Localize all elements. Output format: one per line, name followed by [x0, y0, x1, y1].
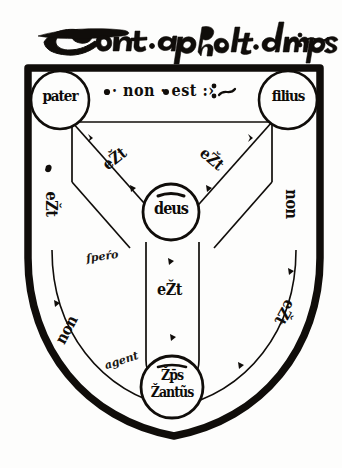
tick-stem-top [168, 258, 174, 265]
edge-label-deus-spiritus: eŽt [157, 282, 182, 298]
label-spiritus-sanctus-line1: Žp̄s [142, 368, 202, 382]
edge-label-pater-filius: · non · est :› [112, 83, 215, 99]
band-right-outer [214, 182, 272, 248]
label-spiritus-sanctus-line2: Žantũs [138, 385, 206, 399]
band-left-outer [72, 182, 130, 248]
dot-top-left [104, 89, 110, 95]
label-deus: deus [141, 201, 201, 217]
tick-stem-bot [170, 334, 176, 341]
tick-inner-left [88, 134, 93, 142]
edge-label-pater-left: eŽt [43, 191, 59, 216]
tick-left-edge [45, 165, 52, 172]
label-filius: filius [258, 89, 318, 104]
manuscript-page: pater filius deus Žp̄s Žantũs · non · es… [0, 0, 342, 468]
tilde-flourish-top [219, 89, 235, 95]
tick-lowright [288, 268, 294, 275]
title-inscription [38, 22, 338, 64]
label-pater: pater [30, 89, 90, 104]
band-right-inner [192, 122, 272, 212]
edge-label-filius-right: non [283, 189, 299, 218]
tick-inner-right [248, 134, 253, 142]
tick-lowright2 [238, 362, 244, 369]
